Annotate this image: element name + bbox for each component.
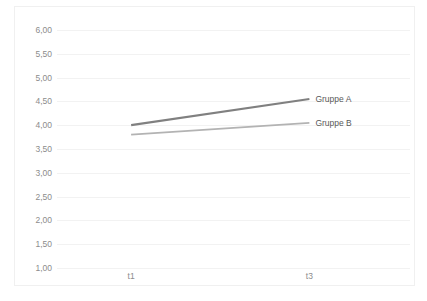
y-axis-tick-label: 1,50 xyxy=(8,240,52,249)
y-axis-tick-label: 3,00 xyxy=(8,169,52,178)
y-axis-tick-label: 2,50 xyxy=(8,192,52,201)
y-axis-tick-label: 3,50 xyxy=(8,145,52,154)
y-axis-tick-label: 4,50 xyxy=(8,97,52,106)
plot-area xyxy=(57,30,410,268)
series-label-gruppe-a: Gruppe A xyxy=(315,95,351,104)
gridline xyxy=(57,268,410,269)
y-axis-tick-label: 1,00 xyxy=(8,264,52,273)
line-chart: 6,005,505,004,504,003,503,002,502,001,50… xyxy=(0,0,427,301)
y-axis-tick-label: 5,00 xyxy=(8,73,52,82)
y-axis-tick-label: 5,50 xyxy=(8,50,52,59)
x-axis-tick-label: t1 xyxy=(128,272,135,281)
y-axis-tick-label: 6,00 xyxy=(8,26,52,35)
y-axis-tick-label: 4,00 xyxy=(8,121,52,130)
series-layer xyxy=(57,30,410,268)
x-axis: t1t3 xyxy=(57,272,410,286)
series-label-gruppe-b: Gruppe B xyxy=(315,119,351,128)
x-axis-tick-label: t3 xyxy=(306,272,313,281)
series-line xyxy=(131,99,309,125)
series-line xyxy=(131,123,309,135)
y-axis: 6,005,505,004,504,003,503,002,502,001,50… xyxy=(4,30,52,268)
y-axis-tick-label: 2,00 xyxy=(8,216,52,225)
